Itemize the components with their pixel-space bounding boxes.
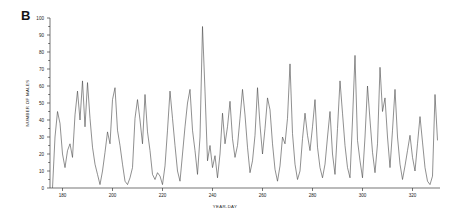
- y-tick-label: 90: [39, 33, 45, 38]
- y-axis-ticks: 0102030405060708090100: [36, 16, 50, 191]
- chart-plot: 0102030405060708090100 18020022024026028…: [0, 0, 452, 224]
- data-line-number-of-males: [53, 27, 438, 189]
- x-tick-label: 300: [359, 193, 367, 198]
- y-tick-label: 40: [39, 118, 45, 123]
- y-tick-label: 50: [39, 101, 45, 106]
- x-axis-ticks: 180200220240260280300320: [59, 188, 417, 198]
- y-tick-label: 70: [39, 67, 45, 72]
- y-tick-label: 80: [39, 50, 45, 55]
- x-axis-title: YEAR-DAY: [213, 204, 237, 209]
- x-tick-label: 240: [209, 193, 217, 198]
- y-axis-title: NUMBER OF MALES: [25, 80, 30, 127]
- y-tick-label: 20: [39, 152, 45, 157]
- x-tick-label: 280: [309, 193, 317, 198]
- y-tick-label: 60: [39, 84, 45, 89]
- y-tick-label: 0: [41, 186, 44, 191]
- data-series-group: [53, 27, 438, 189]
- figure-panel-b: B 0102030405060708090100 180200220240260…: [0, 0, 452, 224]
- y-tick-label: 10: [39, 169, 45, 174]
- x-tick-label: 180: [59, 193, 67, 198]
- x-tick-label: 200: [109, 193, 117, 198]
- x-tick-label: 320: [409, 193, 417, 198]
- y-tick-label: 30: [39, 135, 45, 140]
- x-tick-label: 260: [259, 193, 267, 198]
- y-tick-label: 100: [36, 16, 44, 21]
- x-tick-label: 220: [159, 193, 167, 198]
